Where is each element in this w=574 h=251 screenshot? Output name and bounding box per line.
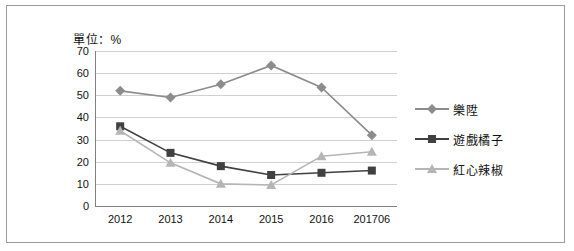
y-tick-label: 20 bbox=[77, 156, 89, 168]
data-point-marker bbox=[267, 171, 275, 179]
legend-item: 樂陞 bbox=[415, 94, 535, 124]
x-tick-label: 2014 bbox=[209, 213, 233, 225]
series-line bbox=[120, 65, 372, 135]
data-point-marker bbox=[166, 93, 176, 103]
legend-label: 遊戲橘子 bbox=[453, 131, 503, 148]
legend-item: 遊戲橘子 bbox=[415, 124, 535, 154]
legend-marker bbox=[415, 102, 449, 116]
legend-label: 紅心辣椒 bbox=[453, 161, 503, 178]
series-line bbox=[120, 131, 372, 185]
x-tick-label: 201706 bbox=[353, 213, 390, 225]
x-tick-label: 2013 bbox=[158, 213, 182, 225]
data-point-marker bbox=[166, 158, 176, 167]
y-tick-label: 0 bbox=[83, 200, 89, 212]
data-point-marker bbox=[217, 162, 225, 170]
data-point-marker bbox=[368, 167, 376, 175]
x-tick-label: 2012 bbox=[108, 213, 132, 225]
data-point-marker bbox=[427, 164, 437, 173]
series-lines bbox=[95, 51, 397, 206]
x-tick-label: 2015 bbox=[259, 213, 283, 225]
data-point-marker bbox=[115, 86, 125, 96]
legend-item: 紅心辣椒 bbox=[415, 154, 535, 184]
legend-label: 樂陞 bbox=[453, 101, 478, 118]
legend-marker bbox=[415, 162, 449, 176]
legend: 樂陞遊戲橘子紅心辣椒 bbox=[415, 94, 535, 184]
x-axis-line bbox=[95, 206, 397, 207]
data-point-marker bbox=[428, 135, 436, 143]
data-point-marker bbox=[167, 149, 175, 157]
data-point-marker bbox=[318, 169, 326, 177]
data-point-marker bbox=[427, 104, 437, 114]
data-point-marker bbox=[367, 147, 377, 156]
y-tick-label: 40 bbox=[77, 111, 89, 123]
plot-area: 010203040506070 201220132014201520162017… bbox=[95, 51, 397, 206]
chart-frame: 單位：% 010203040506070 2012201320142015201… bbox=[6, 5, 565, 243]
y-tick-label: 60 bbox=[77, 67, 89, 79]
y-tick-label: 70 bbox=[77, 45, 89, 57]
legend-marker bbox=[415, 132, 449, 146]
y-tick-label: 50 bbox=[77, 89, 89, 101]
y-tick-label: 30 bbox=[77, 134, 89, 146]
y-tick-label: 10 bbox=[77, 178, 89, 190]
x-tick-label: 2016 bbox=[309, 213, 333, 225]
data-point-marker bbox=[266, 60, 276, 70]
series-line bbox=[120, 126, 372, 175]
data-point-marker bbox=[216, 79, 226, 89]
